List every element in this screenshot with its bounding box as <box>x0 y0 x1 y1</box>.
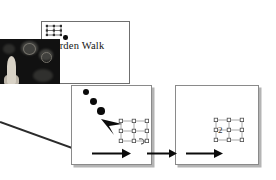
poster-accent-dot <box>63 35 68 40</box>
lattice-label-2: 2 <box>218 125 223 135</box>
flow-arrow-2 <box>147 147 178 160</box>
trail-dot <box>83 89 89 95</box>
garden-statue-photograph <box>0 39 60 84</box>
flow-arrow-3 <box>186 147 224 160</box>
slide-canvas: Garden Walk <box>0 0 276 180</box>
mini-lattice-icon <box>45 24 63 37</box>
large-arrowhead <box>100 112 126 136</box>
flow-arrow-1 <box>92 147 132 160</box>
lattice-structure-2: 2 <box>212 116 246 144</box>
trail-dot <box>90 98 97 105</box>
